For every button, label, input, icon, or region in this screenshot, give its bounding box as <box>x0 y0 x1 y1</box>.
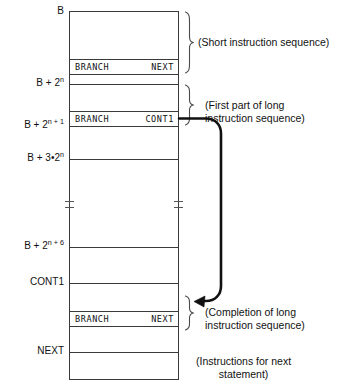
address-label-cont1-wrap: CONT1 <box>0 277 64 289</box>
address-label-next: NEXT <box>37 346 64 356</box>
rule-cont1 <box>69 283 179 284</box>
note-first-part-long-sequence: (First part of long instruction sequence… <box>205 99 305 124</box>
address-label-b-2n: B + 2n <box>36 78 64 88</box>
address-label-b-2n1-wrap: B + 2n + 1 <box>0 120 64 132</box>
address-exponent: n <box>60 75 64 84</box>
address-base: B + 2 <box>24 240 48 251</box>
address-label-next-wrap: NEXT <box>0 346 64 358</box>
memory-layout-diagram: BRANCH NEXT BRANCH CONT1 BRANCH NEXT B B… <box>0 0 344 390</box>
instruction-cell-branch-cont1: BRANCH CONT1 <box>69 111 179 126</box>
rule-b-2n-plus-6 <box>69 247 179 248</box>
instruction-cell-branch-next-bottom: BRANCH NEXT <box>69 311 179 326</box>
rule-branch-next-top-lower <box>69 74 179 75</box>
brace-completion <box>186 296 194 330</box>
address-label-b-2n-plus-6: B + 2n + 6 <box>24 241 64 251</box>
address-label-cont1: CONT1 <box>30 277 64 287</box>
break-mark-right <box>174 200 183 211</box>
operand-label: CONT1 <box>145 114 174 124</box>
break-mark-left <box>65 200 74 211</box>
rule-next <box>69 352 179 353</box>
rule-branch-next-bottom-lower <box>69 326 179 327</box>
address-base: B + 2 <box>24 119 48 130</box>
note-instructions-next-statement: (Instructions for next statement) <box>196 355 291 380</box>
branch-flow-arrowhead <box>194 296 205 307</box>
rule-bottom <box>69 379 179 380</box>
rule-b-3x2n <box>69 159 179 160</box>
brace-first-part <box>186 85 194 125</box>
address-exponent: n + 6 <box>48 238 64 247</box>
opcode-label: BRANCH <box>75 314 109 324</box>
address-exponent: n + 1 <box>48 117 64 126</box>
address-label-b-3x2n-wrap: B + 3•2n <box>0 153 64 165</box>
address-label-b-wrap: B <box>0 6 64 18</box>
address-label-b-3x2n: B + 3•2n <box>27 153 64 163</box>
note-completion-long-sequence: (Completion of long instruction sequence… <box>205 306 305 331</box>
address-label-b-2n-wrap: B + 2n <box>0 78 64 90</box>
address-label-b-2n-plus-1: B + 2n + 1 <box>24 120 64 130</box>
rule-b-2n <box>69 84 179 85</box>
branch-flow-connector <box>179 119 221 302</box>
instruction-cell-branch-next-top: BRANCH NEXT <box>69 59 179 74</box>
address-label-b-2n6-wrap: B + 2n + 6 <box>0 241 64 253</box>
address-exponent: n <box>60 150 64 159</box>
operand-label: NEXT <box>151 62 174 72</box>
address-base: B + 3•2 <box>27 152 60 163</box>
rule-top-b <box>69 11 179 12</box>
brace-short-sequence <box>186 12 194 73</box>
address-base: B + 2 <box>36 77 60 88</box>
operand-label: NEXT <box>151 314 174 324</box>
opcode-label: BRANCH <box>75 114 109 124</box>
rule-b-2n-plus-1 <box>69 126 179 127</box>
opcode-label: BRANCH <box>75 62 109 72</box>
address-label-b: B <box>57 6 64 16</box>
note-short-instruction-sequence: (Short instruction sequence) <box>198 36 329 49</box>
